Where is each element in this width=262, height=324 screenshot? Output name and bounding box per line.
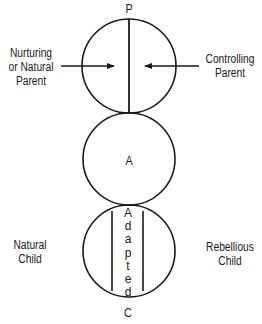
nurturing-parent-label-line-3: Parent — [6, 74, 57, 88]
adapted-letter: d — [120, 286, 136, 299]
rebellious-child-label: Rebellious Child — [204, 240, 256, 268]
controlling-parent-label-line-2: Parent — [204, 66, 256, 80]
adapted-letter: p — [120, 247, 136, 260]
child-letter: C — [122, 306, 135, 320]
controlling-parent-label: Controlling Parent — [204, 52, 256, 80]
natural-child-label-line-2: Child — [7, 252, 53, 266]
nurturing-parent-label: Nurturing or Natural Parent — [6, 46, 57, 88]
controlling-parent-label-line-1: Controlling — [204, 52, 256, 66]
adult-letter: A — [123, 154, 136, 168]
rebellious-child-label-line-2: Child — [204, 254, 256, 268]
adapted-child-label: A d a p t e d — [120, 207, 136, 299]
rebellious-child-label-line-1: Rebellious — [204, 240, 256, 254]
nurturing-parent-label-line-2: or Natural — [6, 60, 57, 74]
nurturing-parent-label-line-1: Nurturing — [6, 46, 57, 60]
parent-letter: P — [123, 2, 136, 16]
adapted-letter: a — [120, 233, 136, 246]
natural-child-label: Natural Child — [7, 238, 53, 266]
natural-child-label-line-1: Natural — [7, 238, 53, 252]
